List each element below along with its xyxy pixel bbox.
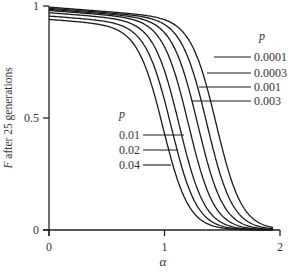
y-tick-label: 0.5 [24,111,39,125]
legend-entry: 0.001 [254,80,281,94]
legend-entry: 0.003 [254,94,281,108]
legend-entry: 0.04 [119,158,140,172]
curves [49,7,273,230]
y-tick-label: 1 [33,0,39,13]
y-axis-label: F after 25 generations [2,67,15,170]
legends: p0.00010.00030.0010.003p0.010.020.04 [118,29,287,172]
x-tick-label: 0 [46,240,52,254]
legend-entry: 0.02 [119,143,140,157]
curve-0.02 [49,16,273,230]
y-ticks: 00.51 [24,0,49,237]
x-tick-label: 2 [277,240,283,254]
legend-entry: 0.0003 [254,66,287,80]
x-ticks: 012 [46,230,283,254]
x-axis-label: α [160,254,168,269]
x-tick-label: 1 [162,240,168,254]
y-tick-label: 0 [33,223,39,237]
legend-entry: 0.01 [119,128,140,142]
curve-0.04 [49,19,273,230]
chart-container: 00.51 012 p0.00010.00030.0010.003p0.010.… [0,0,292,273]
legend-entry: 0.0001 [254,50,287,64]
legend-title-p: p [258,29,265,43]
legend-title-p: p [118,107,125,121]
